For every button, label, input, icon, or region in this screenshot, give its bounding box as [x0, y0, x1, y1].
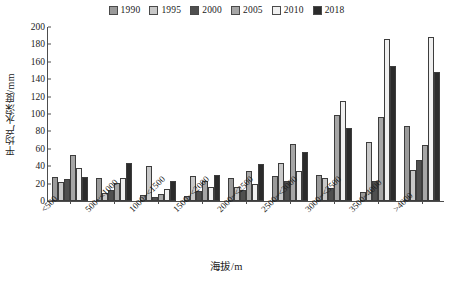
legend-label: 2000	[202, 6, 222, 15]
y-axis-title-text: 平均产水深度/mm	[3, 73, 18, 156]
bar-2018-7	[390, 66, 396, 201]
legend-label: 2018	[325, 6, 345, 15]
y-tick-label: 140	[31, 75, 48, 84]
bar-2018-6	[346, 128, 352, 201]
legend-label: 1995	[161, 6, 181, 15]
y-tick-label: 60	[36, 144, 49, 153]
bar-2018-3	[214, 175, 220, 201]
legend-item-2000: 2000	[190, 6, 222, 15]
legend-swatch-icon	[313, 6, 322, 15]
bar-2018-5	[302, 152, 308, 201]
legend-swatch-icon	[190, 6, 199, 15]
chart-legend: 199019952000200520102018	[0, 6, 453, 15]
y-tick-label: 80	[36, 127, 49, 136]
bar-group-0	[48, 27, 92, 201]
y-axis-title: 平均产水深度/mm	[4, 27, 17, 201]
legend-item-1990: 1990	[109, 6, 141, 15]
legend-swatch-icon	[272, 6, 281, 15]
legend-item-2005: 2005	[231, 6, 263, 15]
x-axis-title: 海拔/m	[0, 258, 453, 273]
legend-item-2010: 2010	[272, 6, 304, 15]
y-tick-label: 40	[36, 162, 49, 171]
y-tick-label: 20	[36, 179, 49, 188]
bar-group-1	[92, 27, 136, 201]
legend-label: 2005	[243, 6, 263, 15]
bar-group-8	[400, 27, 444, 201]
y-tick-label: 200	[31, 23, 48, 32]
legend-swatch-icon	[109, 6, 118, 15]
legend-label: 2010	[284, 6, 304, 15]
y-tick-label: 120	[31, 92, 48, 101]
legend-item-2018: 2018	[313, 6, 345, 15]
legend-label: 1990	[121, 6, 141, 15]
x-axis-labels: <500500~<10001000~<15001500~<20002000~<2…	[47, 203, 443, 261]
y-tick-label: 180	[31, 40, 48, 49]
legend-item-1995: 1995	[149, 6, 181, 15]
bar-2018-1	[126, 163, 132, 201]
bar-2018-0	[82, 177, 88, 201]
y-tick-label: 100	[31, 110, 48, 119]
bar-2018-2	[170, 181, 176, 201]
bar-2018-8	[434, 72, 440, 201]
bar-2018-4	[258, 164, 264, 201]
legend-swatch-icon	[231, 6, 240, 15]
bar-group-7	[356, 27, 400, 201]
y-tick-label: 160	[31, 57, 48, 66]
legend-swatch-icon	[149, 6, 158, 15]
bar-chart: 199019952000200520102018 平均产水深度/mm 20018…	[0, 0, 453, 282]
